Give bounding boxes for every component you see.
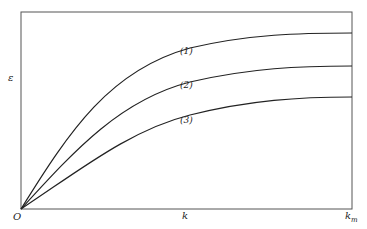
origin-label: O <box>13 211 21 222</box>
curve-3-label: (3) <box>180 115 193 125</box>
curve-3 <box>21 97 352 209</box>
y-axis-label: ε <box>8 72 13 83</box>
x-max-subscript: m <box>351 216 358 224</box>
x-max-label: km <box>345 210 358 224</box>
x-axis-label: k <box>182 210 188 221</box>
curve-2-label: (2) <box>180 80 193 90</box>
curve-1-label: (1) <box>180 46 193 56</box>
plot-frame <box>21 12 352 209</box>
